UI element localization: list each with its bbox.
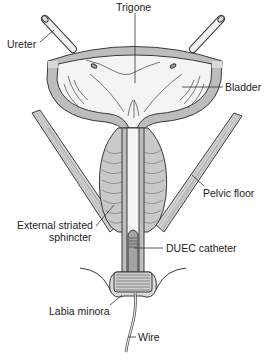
- catheter-base: [114, 272, 152, 292]
- label-duec-catheter: DUEC catheter: [166, 242, 237, 254]
- leader-ureter: [40, 30, 54, 42]
- label-trigone: Trigone: [116, 1, 151, 13]
- label-external-sphincter-line2: sphincter: [49, 231, 92, 243]
- wire: [126, 292, 136, 352]
- label-wire: Wire: [138, 331, 160, 343]
- pelvic-floor-right: [156, 113, 242, 232]
- bladder-catheter-diagram: Trigone Ureter Bladder Pelvic floor Exte…: [0, 0, 274, 362]
- duec-catheter: [128, 230, 138, 276]
- label-ureter: Ureter: [7, 38, 37, 50]
- label-pelvic-floor: Pelvic floor: [203, 187, 255, 199]
- label-bladder: Bladder: [225, 81, 262, 93]
- label-labia-minora: Labia minora: [49, 305, 110, 317]
- ureter-left: [41, 15, 73, 49]
- label-external-sphincter-line1: External striated: [17, 219, 93, 231]
- ureter-right: [193, 15, 225, 49]
